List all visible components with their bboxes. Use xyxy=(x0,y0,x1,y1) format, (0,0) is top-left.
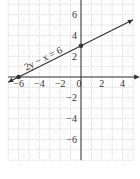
plotted-point xyxy=(79,44,84,49)
plotted-point xyxy=(16,75,21,80)
x-tick-label: −2 xyxy=(55,78,66,89)
x-tick-label: −6 xyxy=(13,78,24,89)
y-tick-label: 6 xyxy=(72,9,77,20)
y-tick-label: −6 xyxy=(66,134,77,145)
x-tick-label: −4 xyxy=(34,78,45,89)
x-tick-label: 2 xyxy=(99,78,104,89)
y-tick-label: −2 xyxy=(66,92,77,103)
y-tick-label: −4 xyxy=(66,113,77,124)
coordinate-plane: −6−4−2024642−2−4−6 2y − x = 6 x xyxy=(0,0,140,179)
y-tick-label: 4 xyxy=(72,30,77,41)
y-tick-label: 2 xyxy=(72,51,77,62)
x-tick-label: 0 xyxy=(77,78,82,89)
x-tick-label: 4 xyxy=(120,78,125,89)
equation-label: 2y − x = 6 xyxy=(22,44,64,72)
